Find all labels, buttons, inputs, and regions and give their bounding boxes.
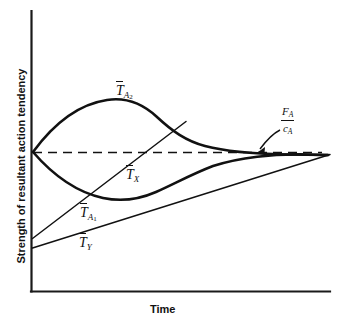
x-axis-title: Time bbox=[150, 303, 175, 315]
series-label-t-a1: TA1 bbox=[80, 204, 97, 223]
y-axis-title: Strength of resultant action tendency bbox=[15, 66, 27, 266]
series-curve-t-a1 bbox=[33, 152, 328, 200]
series-label-t-x: TX bbox=[126, 166, 139, 184]
fraction-numerator: FA bbox=[281, 106, 294, 119]
series-line-t-x bbox=[33, 122, 187, 239]
asymptote-annotation: FA cA bbox=[281, 106, 294, 135]
chart-plot-area bbox=[0, 0, 340, 328]
figure-container: TA2 TX TA1 TY FA cA Strength of resultan… bbox=[0, 0, 340, 328]
series-label-t-a2: TA2 bbox=[116, 82, 133, 101]
fraction-denominator: cA bbox=[281, 123, 294, 136]
annotation-leader-line bbox=[260, 130, 280, 149]
series-line-t-y bbox=[33, 155, 331, 249]
series-label-t-y: TY bbox=[79, 234, 92, 252]
